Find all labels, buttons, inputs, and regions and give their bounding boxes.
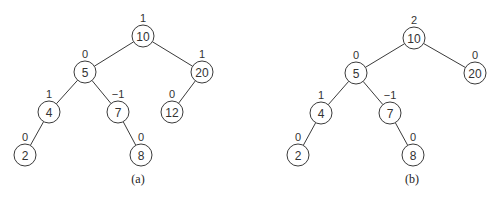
balance-factor: 2 xyxy=(411,14,417,26)
edge-10-20 xyxy=(424,43,466,67)
edge-4-2 xyxy=(30,122,43,146)
tree-node-4: 41 xyxy=(38,88,60,123)
tree-node-7: 7−1 xyxy=(107,88,129,123)
edge-7-8 xyxy=(395,123,407,146)
balance-factor: −1 xyxy=(384,89,397,101)
tree-node-4: 41 xyxy=(310,89,332,124)
tree-node-20: 201 xyxy=(191,48,213,83)
tree-node-8: 80 xyxy=(402,131,424,166)
edge-5-4 xyxy=(328,81,349,104)
balance-factor: 1 xyxy=(46,88,52,100)
balance-factor: 1 xyxy=(140,12,146,24)
figure-caption: (b) xyxy=(405,172,419,186)
node-key: 2 xyxy=(295,149,302,163)
node-key: 8 xyxy=(138,149,145,163)
node-key: 5 xyxy=(353,67,360,81)
balance-factor: −1 xyxy=(112,88,125,100)
tree-node-2: 20 xyxy=(14,131,36,166)
tree-node-7: 7−1 xyxy=(379,89,401,124)
edge-5-7 xyxy=(92,80,111,103)
node-key: 20 xyxy=(468,67,482,81)
node-key: 4 xyxy=(46,106,53,120)
balance-factor: 0 xyxy=(410,131,416,143)
tree-node-5: 50 xyxy=(74,48,96,83)
tree-node-20: 200 xyxy=(464,49,486,84)
edge-20-12 xyxy=(179,81,196,103)
tree-node-8: 80 xyxy=(130,131,152,166)
balance-factor: 0 xyxy=(138,131,144,143)
tree-node-12: 120 xyxy=(161,88,183,123)
tree-node-10: 102 xyxy=(403,14,425,49)
node-key: 7 xyxy=(387,107,394,121)
tree-b: 10250200417−12080(b) xyxy=(287,14,486,186)
node-key: 4 xyxy=(318,107,325,121)
balance-factor: 0 xyxy=(82,48,88,60)
edge-4-2 xyxy=(303,123,315,146)
avl-trees-diagram: 10150201417−11202080(a) 10250200417−1208… xyxy=(0,0,495,204)
node-key: 5 xyxy=(82,66,89,80)
balance-factor: 0 xyxy=(353,49,359,61)
tree-node-5: 50 xyxy=(345,49,367,84)
balance-factor: 0 xyxy=(22,131,28,143)
balance-factor: 0 xyxy=(472,49,478,61)
node-key: 20 xyxy=(195,66,209,80)
balance-factor: 0 xyxy=(169,88,175,100)
edge-10-5 xyxy=(94,42,133,66)
figure-caption: (a) xyxy=(131,172,144,186)
edge-5-7 xyxy=(363,81,383,104)
node-key: 2 xyxy=(22,149,29,163)
balance-factor: 1 xyxy=(199,48,205,60)
balance-factor: 0 xyxy=(295,131,301,143)
tree-a: 10150201417−11202080(a) xyxy=(14,12,213,186)
edge-5-4 xyxy=(56,80,77,104)
edge-10-20 xyxy=(152,42,192,67)
edge-7-8 xyxy=(123,122,136,146)
node-key: 8 xyxy=(410,149,417,163)
tree-node-2: 20 xyxy=(287,131,309,166)
node-key: 12 xyxy=(165,106,179,120)
node-key: 10 xyxy=(407,32,421,46)
tree-node-10: 101 xyxy=(132,12,154,47)
node-key: 10 xyxy=(136,30,150,44)
balance-factor: 1 xyxy=(318,89,324,101)
node-key: 7 xyxy=(115,106,122,120)
edge-10-5 xyxy=(365,44,404,68)
